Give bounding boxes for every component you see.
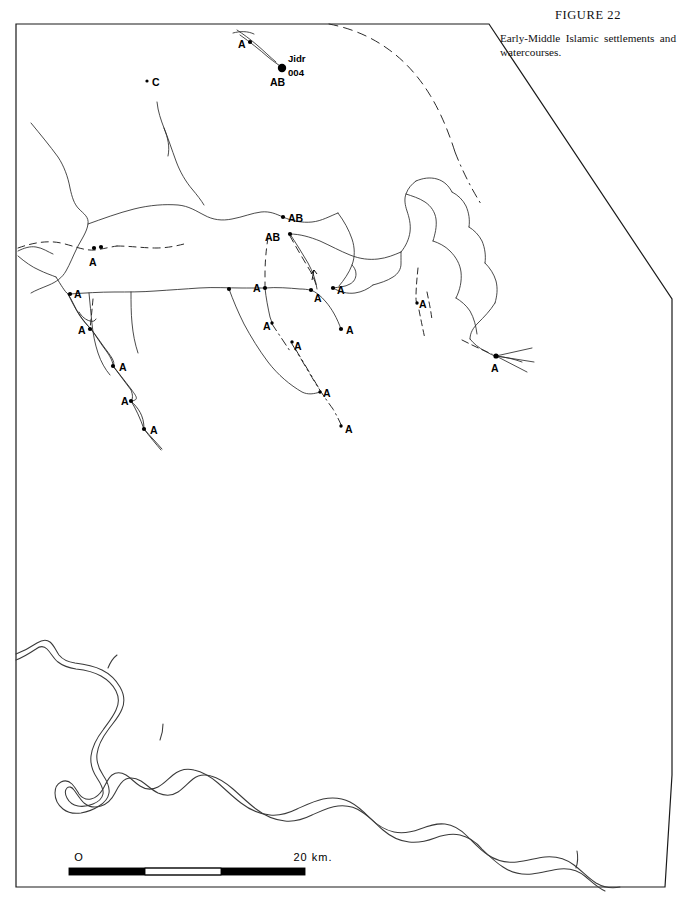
watercourse-central-canal	[70, 288, 265, 294]
scale-segment	[221, 868, 297, 875]
site-dot	[493, 353, 498, 358]
site-dot	[111, 364, 115, 368]
site-dot	[129, 399, 133, 403]
scale-end-label: 20 km.	[293, 851, 332, 863]
site-dot-jidr	[278, 64, 286, 72]
site-dot	[92, 246, 96, 250]
watercourse-drop-center	[229, 289, 320, 394]
watercourse-dash-s20c	[427, 292, 432, 320]
site-label: A	[419, 298, 427, 310]
watercourse-dash-s20b	[419, 310, 425, 339]
site-label: A	[337, 284, 345, 296]
site-label: AB	[270, 76, 286, 88]
named-site-jidr: Jidr 004	[288, 53, 306, 78]
watercourse-central-canal-2	[265, 288, 311, 290]
jidr-name-label: Jidr	[288, 53, 306, 64]
watercourse-fan1	[496, 348, 532, 356]
site-dot	[331, 286, 335, 290]
watercourse-ab-east	[290, 234, 401, 259]
watercourse-e3	[433, 241, 461, 298]
watercourse-jidr-b	[240, 35, 285, 69]
watercourse-dash-s20a	[416, 268, 418, 303]
site-label: A	[346, 324, 354, 336]
map-canvas: A AB C AB AB A A A A A A A A A A A A A A…	[0, 0, 682, 902]
watercourse-network-dashed	[18, 24, 492, 427]
watercourse-dashdot-c1	[272, 324, 290, 351]
site-label: A	[294, 340, 302, 352]
watercourse-dash-abs	[265, 238, 268, 288]
site-label: A	[89, 256, 97, 268]
watercourse-nw-branch	[31, 123, 88, 293]
watercourse-dash-s11	[90, 299, 93, 329]
site-label: AB	[288, 212, 304, 224]
watercourse-dash-w2	[117, 244, 184, 248]
site-label: A	[238, 38, 246, 50]
site-labels-layer: A AB C AB AB A A A A A A A A A A A A A A…	[74, 38, 499, 436]
site-dot	[142, 427, 146, 431]
site-dot	[145, 79, 148, 82]
site-dot	[227, 287, 231, 291]
site-dot	[339, 424, 342, 427]
site-label: A	[150, 424, 158, 436]
watercourse-c-stub	[157, 102, 169, 156]
survey-area-boundary	[16, 24, 672, 887]
site-dot	[88, 327, 92, 331]
watercourse-dashdot-c3	[296, 350, 320, 390]
site-label: A	[121, 395, 129, 407]
watercourse-ul-2	[18, 256, 56, 277]
watercourse-e8	[485, 263, 497, 303]
site-dot	[339, 327, 343, 331]
jidr-number-label: 004	[288, 67, 305, 78]
site-dot	[248, 40, 252, 44]
watercourse-c2	[338, 213, 354, 286]
site-label: A	[253, 282, 261, 294]
site-label: C	[152, 76, 160, 88]
site-dot	[288, 232, 292, 236]
watercourse-stem-s07	[265, 288, 272, 323]
site-dot	[263, 286, 267, 290]
watercourse-ul-1	[18, 247, 53, 254]
scale-segment	[297, 868, 305, 875]
site-dot	[99, 245, 103, 249]
watercourse-e9	[470, 303, 495, 339]
site-dot	[68, 292, 72, 296]
watercourse-dash-s21	[462, 340, 492, 354]
watercourse-sw-chain	[56, 277, 162, 450]
site-dot	[270, 321, 273, 324]
watercourse-e10	[470, 339, 496, 356]
scale-segment	[145, 868, 221, 875]
watercourse-dash-ne	[329, 24, 455, 152]
site-label: A	[263, 320, 271, 332]
watercourse-drop-left2	[131, 292, 138, 353]
watercourse-e5	[416, 178, 452, 192]
site-dot	[281, 215, 285, 219]
site-label: A	[323, 387, 331, 399]
watercourse-jidr-head	[233, 32, 254, 34]
site-dots-layer	[68, 40, 499, 431]
site-label: A	[78, 324, 86, 336]
scale-segment	[69, 868, 145, 875]
site-label: A	[74, 288, 82, 300]
watercourse-c-lower	[164, 128, 204, 205]
scale-bar: O 20 km.	[69, 851, 333, 875]
site-dot	[318, 390, 321, 393]
figure-22-root: FIGURE 22 Early-Middle Islamic settlemen…	[0, 0, 682, 902]
site-label: A	[491, 362, 499, 374]
site-label: A	[314, 292, 322, 304]
watercourse-e7	[469, 227, 485, 263]
watercourse-e1	[401, 181, 416, 252]
watercourse-dash-diag	[290, 236, 317, 288]
watercourse-e6	[452, 192, 469, 227]
site-label: A	[345, 423, 353, 435]
watercourse-ab-south	[290, 234, 317, 289]
site-label: A	[119, 361, 127, 373]
site-label: AB	[265, 231, 281, 243]
scale-start-label: O	[74, 851, 84, 863]
site-dot	[309, 288, 313, 292]
watercourse-e2	[406, 194, 436, 241]
